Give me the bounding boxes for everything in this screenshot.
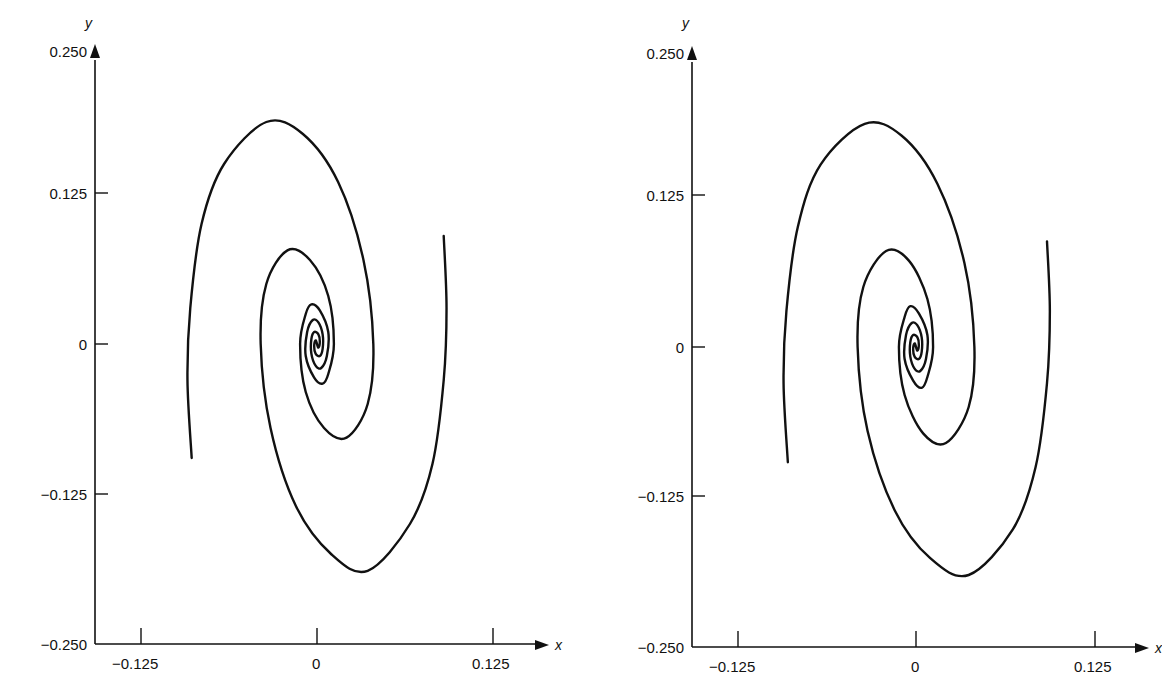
- y-axis-name: y: [682, 16, 689, 30]
- spiral-curve-trajectory-2: [784, 122, 975, 462]
- x-tick-label: 0.125: [472, 656, 510, 671]
- y-tick-label: −0.125: [638, 489, 684, 504]
- y-axis-arrow-icon: [90, 44, 100, 58]
- spiral-curve-trajectory-2: [187, 120, 373, 458]
- plot-canvas-right: [580, 0, 1161, 696]
- y-axis: [90, 44, 108, 644]
- y-tick-label: −0.125: [41, 487, 87, 502]
- x-tick-label: 0: [312, 656, 320, 671]
- y-tick-label: 0.250: [49, 44, 87, 59]
- spiral-curve-trajectory-1: [261, 236, 447, 572]
- x-axis-name: x: [1155, 641, 1162, 655]
- y-tick-label: 0.250: [646, 46, 684, 61]
- x-tick-label: −0.125: [112, 656, 158, 671]
- y-tick-label: −0.250: [638, 640, 684, 655]
- plot-canvas-left: [0, 0, 580, 696]
- y-axis-arrow-icon: [687, 46, 697, 60]
- spiral-trajectories: [784, 122, 1050, 576]
- y-tick-label: 0.125: [646, 188, 684, 203]
- y-axis: [687, 46, 705, 647]
- y-tick-label: 0: [676, 340, 684, 355]
- x-tick-label: 0: [911, 659, 919, 674]
- x-axis-name: x: [555, 638, 562, 652]
- x-axis-arrow-icon: [1135, 643, 1149, 653]
- y-axis-name: y: [85, 16, 92, 30]
- x-axis-arrow-icon: [535, 640, 549, 650]
- phase-plot-left: y x 0.250 0.125 0 −0.125 −0.250 −0.125 0…: [0, 0, 580, 696]
- phase-plot-right: y x 0.250 0.125 0 −0.125 −0.250 −0.125 0…: [580, 0, 1160, 696]
- x-axis: [95, 628, 549, 650]
- spiral-curve-trajectory-1: [857, 241, 1049, 576]
- y-tick-label: 0.125: [49, 186, 87, 201]
- x-axis: [692, 631, 1149, 653]
- y-tick-label: 0: [79, 337, 87, 352]
- x-tick-label: −0.125: [709, 659, 755, 674]
- y-tick-label: −0.250: [41, 637, 87, 652]
- x-tick-label: 0.125: [1074, 659, 1112, 674]
- spiral-trajectories: [187, 120, 446, 572]
